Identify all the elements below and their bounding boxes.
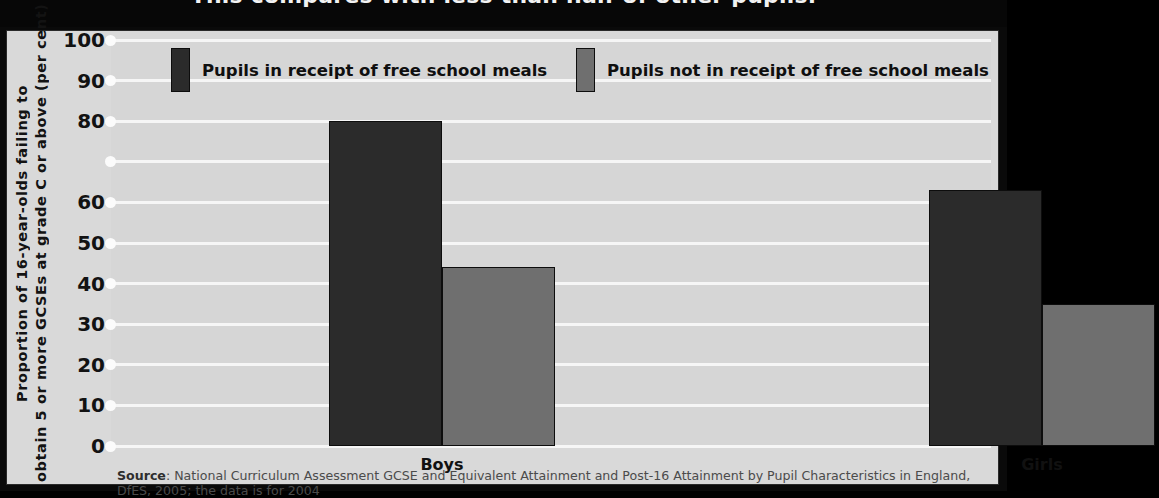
y-axis-tick-marker (105, 400, 116, 411)
y-axis-tick-label: 50 (77, 236, 105, 250)
gridline (111, 242, 991, 245)
y-axis-tick-marker (105, 319, 116, 330)
y-axis-tick-label: 40 (77, 277, 105, 291)
bar-boys-series-1 (442, 267, 555, 446)
legend-item-1[interactable]: Pupils not in receipt of free school mea… (576, 48, 989, 92)
y-axis-tick-marker (105, 116, 116, 127)
y-axis-tick-marker (105, 359, 116, 370)
y-axis-tick-marker (105, 156, 116, 167)
plot-area: BoysGirls (111, 40, 991, 446)
chart-legend: Pupils in receipt of free school mealsPu… (111, 40, 991, 92)
y-axis-tick-labels: 10090806050403020100 (53, 40, 105, 446)
y-axis-tick-marker (105, 441, 116, 452)
bar-girls-series-1 (1042, 304, 1155, 446)
chart-figure-inner: Proportion of 16-year-olds failing to ob… (6, 30, 999, 485)
y-axis-tick-marker (105, 278, 116, 289)
y-axis-tick-label: 80 (77, 114, 105, 128)
page-title: This compares with less than half of oth… (191, 0, 817, 8)
y-axis-tick-label: 100 (63, 33, 105, 47)
y-axis-tick-label: 20 (77, 358, 105, 372)
y-axis-tick-label: 30 (77, 317, 105, 331)
y-axis-tick-label: 60 (77, 195, 105, 209)
y-axis-title-line-1: Proportion of 16-year-olds failing to (14, 40, 30, 446)
y-axis-title-line-2: obtain 5 or more GCSEs at grade C or abo… (33, 40, 49, 446)
source-note: Source: National Curriculum Assessment G… (117, 468, 993, 498)
legend-item-0[interactable]: Pupils in receipt of free school meals (171, 48, 547, 92)
y-axis-tick-label: 10 (77, 398, 105, 412)
title-band: This compares with less than half of oth… (0, 0, 1007, 27)
legend-label: Pupils not in receipt of free school mea… (607, 61, 989, 80)
source-note-prefix: Source (117, 468, 166, 483)
gridline (111, 120, 991, 123)
y-axis-tick-label: 0 (91, 439, 105, 453)
bar-boys-series-0 (329, 121, 442, 446)
y-axis-tick-marker (105, 197, 116, 208)
bar-girls-series-0 (929, 190, 1042, 446)
y-axis-tick-marker (105, 238, 116, 249)
gridline (111, 160, 991, 163)
chart-figure: Proportion of 16-year-olds failing to ob… (0, 27, 1007, 491)
source-note-text: : National Curriculum Assessment GCSE an… (117, 468, 970, 498)
legend-swatch-icon (576, 48, 595, 92)
legend-swatch-icon (171, 48, 190, 92)
y-axis-tick-label: 90 (77, 74, 105, 88)
gridline (111, 201, 991, 204)
legend-label: Pupils in receipt of free school meals (202, 61, 547, 80)
